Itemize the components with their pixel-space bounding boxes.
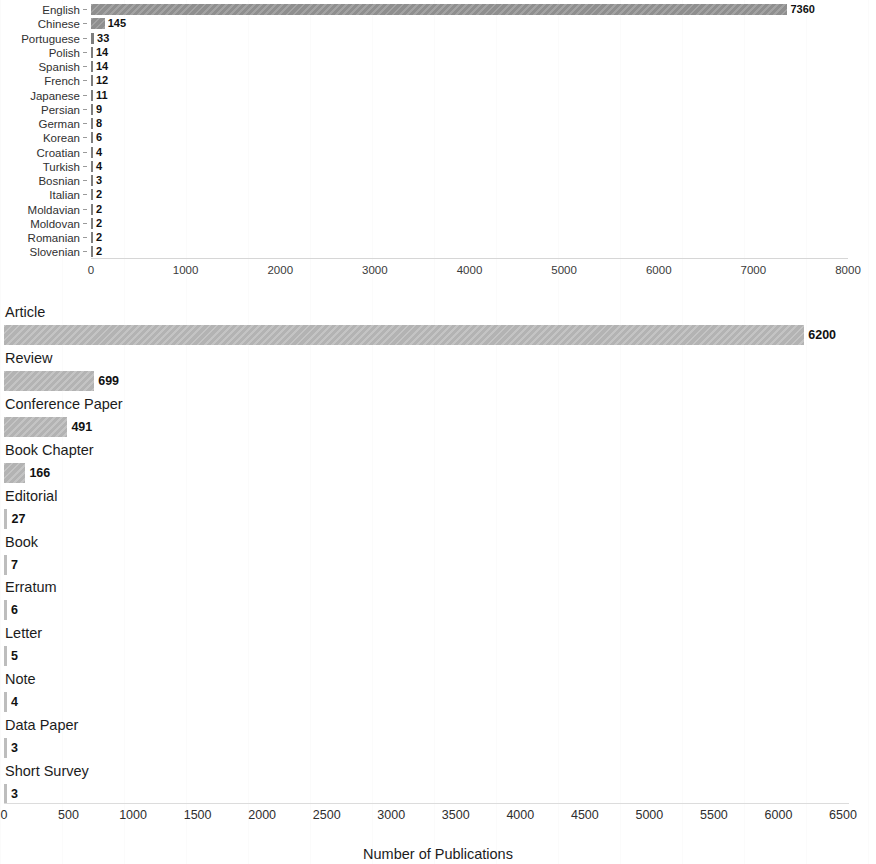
document-type-bar	[4, 417, 67, 437]
language-bar-value: 12	[96, 74, 108, 87]
language-bar-row: Romanian2	[0, 231, 876, 245]
language-category-label: Turkish	[0, 160, 80, 174]
language-bar	[91, 75, 93, 86]
language-bar	[91, 246, 93, 257]
language-bar-row: Moldovan2	[0, 217, 876, 231]
document-type-category-label: Editorial	[5, 488, 57, 505]
document-type-bar-row: Conference Paper491	[0, 396, 876, 442]
language-bar-row: Croatian4	[0, 146, 876, 160]
x-tick-label: 6000	[646, 264, 672, 276]
language-bar-value: 9	[96, 103, 102, 116]
language-bar-row: Spanish14	[0, 60, 876, 74]
document-type-bar-row: Letter5	[0, 625, 876, 671]
language-bar	[91, 47, 93, 58]
language-bar	[91, 132, 93, 143]
document-type-bar-value: 491	[71, 420, 92, 435]
document-type-bar-value: 6	[11, 603, 18, 618]
x-tick-label: 4000	[506, 808, 534, 822]
language-bar-value: 11	[96, 89, 108, 102]
document-type-category-label: Erratum	[5, 579, 57, 596]
language-bar	[91, 175, 93, 186]
x-tick-label: 4500	[571, 808, 599, 822]
x-tick-label: 0	[1, 808, 8, 822]
document-type-bar	[4, 784, 7, 804]
x-tick-label: 1000	[173, 264, 199, 276]
document-type-bar	[4, 555, 7, 575]
language-category-label: Chinese	[0, 17, 80, 31]
language-bar	[91, 161, 93, 172]
language-bar-row: Turkish4	[0, 160, 876, 174]
document-type-category-label: Letter	[5, 625, 42, 642]
language-bar-value: 33	[97, 32, 109, 45]
category-tick-mark	[83, 23, 87, 24]
category-tick-mark	[83, 137, 87, 138]
document-type-bar-value: 5	[11, 649, 18, 664]
language-bar	[91, 147, 93, 158]
document-type-bar	[4, 600, 7, 620]
language-bar	[91, 104, 93, 115]
language-category-label: Croatian	[0, 146, 80, 160]
category-tick-mark	[83, 9, 87, 10]
document-types-x-axis: Number of Publications 05001000150020002…	[0, 803, 876, 864]
language-category-label: Italian	[0, 188, 80, 202]
x-tick-label: 500	[58, 808, 79, 822]
axis-line	[91, 258, 848, 259]
category-tick-mark	[83, 194, 87, 195]
language-bar-row: Chinese145	[0, 17, 876, 31]
x-tick-label: 0	[88, 264, 94, 276]
language-bar-value: 8	[96, 117, 102, 130]
category-tick-mark	[83, 223, 87, 224]
language-bar	[91, 4, 787, 15]
language-bar-row: Moldavian2	[0, 203, 876, 217]
document-type-bar-row: Review699	[0, 350, 876, 396]
document-type-category-label: Conference Paper	[5, 396, 123, 413]
language-bar-row: Bosnian3	[0, 174, 876, 188]
language-bar-value: 3	[96, 174, 102, 187]
x-tick-label: 2000	[267, 264, 293, 276]
category-tick-mark	[83, 52, 87, 53]
x-tick-label: 4000	[457, 264, 483, 276]
document-type-bar-value: 3	[11, 741, 18, 756]
document-type-category-label: Review	[5, 350, 53, 367]
document-type-bar	[4, 463, 25, 483]
document-type-bar	[4, 738, 7, 758]
x-tick-label: 5000	[635, 808, 663, 822]
document-type-category-label: Book	[5, 534, 38, 551]
document-type-bar-row: Data Paper3	[0, 717, 876, 763]
document-type-bar	[4, 646, 7, 666]
category-tick-mark	[83, 109, 87, 110]
language-bar-row: Japanese11	[0, 89, 876, 103]
language-bar-row: Polish14	[0, 46, 876, 60]
language-bar	[91, 118, 93, 129]
document-type-category-label: Data Paper	[5, 717, 78, 734]
category-tick-mark	[83, 80, 87, 81]
document-type-bar	[4, 509, 7, 529]
language-bar-value: 14	[96, 46, 108, 59]
x-tick-label: 6500	[829, 808, 857, 822]
language-bar-value: 145	[108, 17, 126, 30]
language-category-label: German	[0, 117, 80, 131]
language-bar-value: 2	[96, 217, 102, 230]
language-bar	[91, 33, 94, 44]
document-type-bar-row: Editorial27	[0, 488, 876, 534]
language-bar-row: Korean6	[0, 131, 876, 145]
language-bar-row: Italian2	[0, 188, 876, 202]
x-tick-label: 3500	[442, 808, 470, 822]
document-type-bar-row: Book7	[0, 534, 876, 580]
category-tick-mark	[83, 66, 87, 67]
language-bar-value: 4	[96, 160, 102, 173]
language-bar-row: German8	[0, 117, 876, 131]
document-type-bar-row: Erratum6	[0, 579, 876, 625]
language-bar	[91, 218, 93, 229]
language-category-label: Persian	[0, 103, 80, 117]
document-type-category-label: Note	[5, 671, 36, 688]
document-type-bar	[4, 325, 804, 345]
x-tick-label: 7000	[741, 264, 767, 276]
language-bar	[91, 204, 93, 215]
document-type-bar-value: 3	[11, 787, 18, 802]
x-tick-label: 3000	[377, 808, 405, 822]
language-bar-value: 2	[96, 245, 102, 258]
document-type-bar-value: 27	[11, 512, 25, 527]
language-category-label: Portuguese	[0, 32, 80, 46]
language-category-label: Moldovan	[0, 217, 80, 231]
